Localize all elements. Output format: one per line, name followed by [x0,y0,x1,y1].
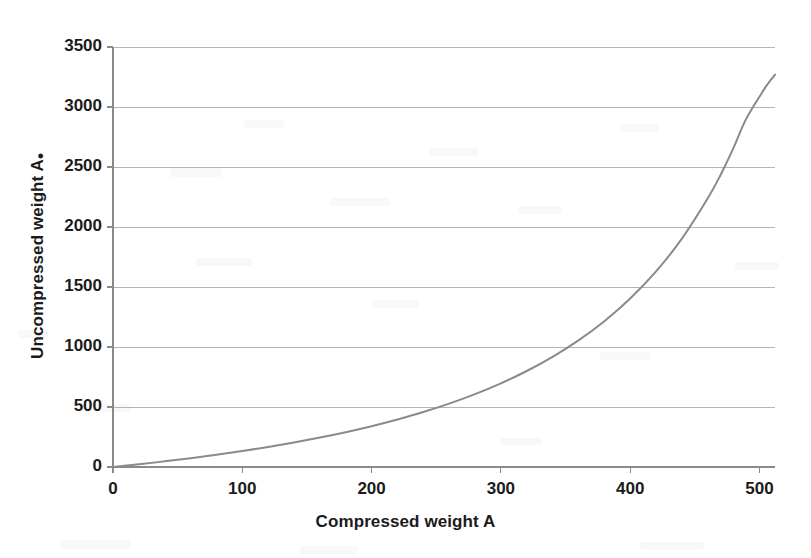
x-tick-label: 200 [342,479,402,499]
x-tick-label: 300 [471,479,531,499]
y-axis-title-wrapper: Uncompressed weight A• [28,36,48,476]
gridlines [113,47,775,407]
data-series-line [113,75,775,467]
x-tick-label: 400 [600,479,660,499]
chart-canvas [0,0,811,558]
y-axis-title: Uncompressed weight A• [28,153,48,359]
chart-figure: 0500100015002000250030003500 01002003004… [0,0,811,558]
x-axis-ticks [113,467,759,473]
y-axis-ticks [107,47,113,467]
y-axis-title-subscript: • [31,153,50,159]
x-axis-title: Compressed weight A [0,512,811,532]
x-tick-label: 0 [83,479,143,499]
x-tick-label: 500 [729,479,789,499]
x-tick-label: 100 [212,479,272,499]
